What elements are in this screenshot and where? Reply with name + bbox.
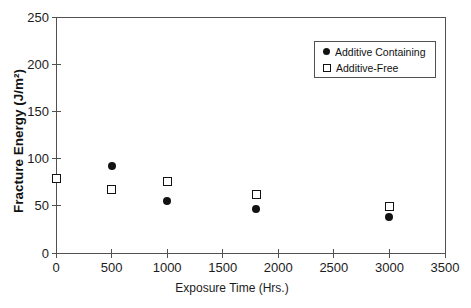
- y-tick-mark: [52, 17, 61, 18]
- x-tick-label: 2500: [311, 260, 357, 275]
- x-tick-mark: [389, 249, 390, 258]
- data-point-additive-free: [52, 174, 61, 183]
- y-tick-mark: [52, 205, 61, 206]
- legend-item-additive-containing: Additive Containing: [323, 45, 435, 58]
- legend-box: Additive ContainingAdditive-Free: [314, 41, 436, 78]
- x-tick-label: 2000: [255, 260, 301, 275]
- data-point-additive-free: [252, 190, 261, 199]
- y-tick-label: 0: [9, 246, 49, 261]
- y-axis-title: Fracture Energy (J/m²): [11, 69, 26, 213]
- data-point-additive-free: [385, 202, 394, 211]
- y-tick-mark: [52, 253, 61, 254]
- legend-label: Additive Containing: [335, 46, 425, 58]
- x-tick-mark: [445, 249, 446, 258]
- x-tick-mark: [111, 249, 112, 258]
- data-point-additive-free: [107, 185, 116, 194]
- x-tick-label: 1000: [144, 260, 190, 275]
- x-tick-mark: [333, 249, 334, 258]
- x-tick-label: 500: [89, 260, 135, 275]
- data-point-additive-containing: [108, 162, 116, 170]
- y-tick-label: 250: [9, 10, 49, 25]
- x-tick-label: 0: [33, 260, 79, 275]
- x-tick-label: 1500: [200, 260, 246, 275]
- x-axis-title: Exposure Time (Hrs.): [56, 281, 408, 295]
- y-tick-mark: [52, 111, 61, 112]
- data-point-additive-containing: [252, 205, 260, 213]
- x-tick-mark: [56, 249, 57, 258]
- x-tick-mark: [167, 249, 168, 258]
- legend-item-additive-free: Additive-Free: [323, 61, 435, 74]
- legend-label: Additive-Free: [336, 62, 398, 74]
- y-tick-mark: [52, 158, 61, 159]
- x-tick-mark: [278, 249, 279, 258]
- filled-circle-icon: [323, 48, 330, 55]
- x-tick-label: 3500: [422, 260, 468, 275]
- chart-figure: 0501001502002500500100015002000250030003…: [0, 0, 471, 308]
- x-tick-label: 3000: [366, 260, 412, 275]
- x-tick-mark: [222, 249, 223, 258]
- y-tick-mark: [52, 64, 61, 65]
- data-point-additive-free: [163, 177, 172, 186]
- open-square-icon: [323, 64, 331, 72]
